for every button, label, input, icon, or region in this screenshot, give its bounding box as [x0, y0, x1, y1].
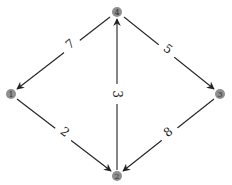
edge-2-4: 3 — [109, 19, 125, 170]
edge-1-2: 2 — [17, 99, 111, 171]
node-2: 2 — [112, 171, 122, 181]
node-label-4: 4 — [114, 8, 119, 17]
node-4: 4 — [112, 7, 122, 17]
node-label-2: 2 — [114, 172, 119, 181]
node-3: 3 — [215, 89, 225, 99]
node-label-1: 1 — [8, 90, 13, 99]
edge-weight-2-4: 3 — [110, 90, 124, 98]
node-1: 1 — [6, 89, 16, 99]
node-label-3: 3 — [217, 90, 222, 99]
graph-diagram: 7 5 3 2 8 4 1 3 2 — [0, 0, 232, 185]
edge-4-1: 7 — [17, 17, 110, 89]
edge-3-2: 8 — [123, 99, 214, 171]
edge-4-3: 5 — [124, 17, 214, 89]
